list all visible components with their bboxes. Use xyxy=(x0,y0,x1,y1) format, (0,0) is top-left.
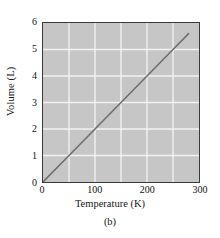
figure-caption: (b) xyxy=(0,216,220,227)
y-axis-tick-label: 3 xyxy=(32,98,37,108)
figure-chart-b: Volume (L) 0123456 0100200300 Temperatur… xyxy=(0,0,220,238)
y-axis-tick-label: 2 xyxy=(32,124,37,134)
y-axis-tick-label: 5 xyxy=(32,44,37,54)
y-axis-tick-labels: 0123456 xyxy=(22,16,40,183)
figure-caption-text: (b) xyxy=(104,216,116,227)
y-axis-title: Volume (L) xyxy=(0,0,22,182)
x-axis-title: Temperature (K) xyxy=(0,198,220,209)
plot-area xyxy=(42,22,200,183)
y-axis-tick-label: 6 xyxy=(32,17,37,27)
y-axis-tick-label: 1 xyxy=(32,151,37,161)
y-axis-title-text: Volume (L) xyxy=(6,66,17,116)
x-axis-tick-labels: 0100200300 xyxy=(42,185,200,199)
x-axis-tick-label: 300 xyxy=(193,185,208,195)
x-axis-tick-label: 200 xyxy=(140,185,155,195)
y-axis-tick-label: 0 xyxy=(32,178,37,188)
x-axis-tick-label: 0 xyxy=(40,185,45,195)
y-axis-tick-label: 4 xyxy=(32,71,37,81)
x-axis-title-text: Temperature (K) xyxy=(75,198,145,209)
x-axis-tick-label: 100 xyxy=(87,185,102,195)
data-series-line xyxy=(43,23,199,182)
